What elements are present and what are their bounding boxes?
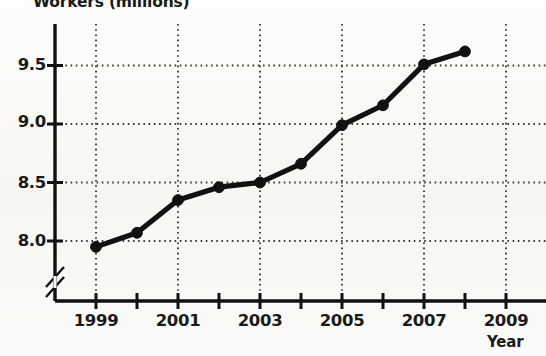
data-point-2000 [132,227,143,238]
data-point-2006 [378,100,389,111]
plot-area [0,0,546,356]
data-line-workers [96,51,465,246]
data-point-2007 [419,59,430,70]
data-point-2008 [460,46,471,57]
line-chart: Workers (millions) 9.5 9.0 8.5 8.0 1999 … [0,0,546,356]
data-point-2003 [255,177,266,188]
data-point-2005 [337,120,348,131]
data-point-1999 [91,241,102,252]
data-point-2004 [296,158,307,169]
data-point-2002 [214,182,225,193]
data-point-2001 [173,195,184,206]
